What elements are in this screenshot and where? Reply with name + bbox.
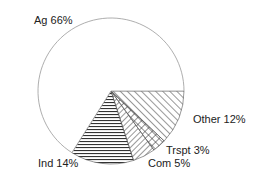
- label-trspt: Trspt 3%: [166, 144, 210, 156]
- label-other: Other 12%: [193, 113, 246, 125]
- pie-chart: [0, 0, 267, 180]
- label-ind: Ind 14%: [38, 157, 78, 169]
- label-com: Com 5%: [148, 157, 190, 169]
- label-ag: Ag 66%: [34, 14, 73, 26]
